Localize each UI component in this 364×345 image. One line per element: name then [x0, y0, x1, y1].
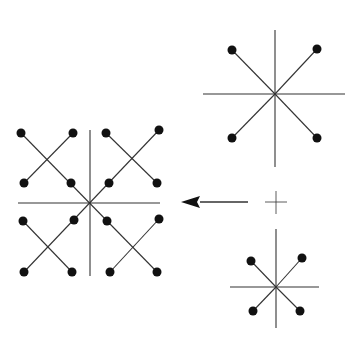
dot	[313, 45, 322, 54]
diagram-canvas	[0, 0, 364, 345]
dot	[69, 129, 78, 138]
spoke-line	[275, 94, 317, 138]
dot	[296, 307, 305, 316]
dot	[228, 46, 237, 55]
dot	[105, 179, 114, 188]
spoke-line	[232, 94, 275, 138]
dot	[228, 134, 237, 143]
spoke-line	[251, 261, 276, 287]
spoke-line	[253, 287, 276, 311]
dot	[67, 179, 76, 188]
dot	[20, 179, 29, 188]
dot	[70, 216, 79, 225]
arrow-head	[181, 196, 200, 208]
dot	[298, 254, 307, 263]
dot	[153, 268, 162, 277]
dot	[19, 217, 28, 226]
dot	[17, 129, 26, 138]
diagonal-line	[24, 133, 73, 183]
diagonal-line	[110, 219, 159, 272]
dot	[313, 134, 322, 143]
spoke-line	[276, 258, 302, 287]
left-arrow	[181, 196, 248, 208]
composite-pattern	[17, 126, 164, 277]
dot	[155, 126, 164, 135]
dot	[155, 215, 164, 224]
diagonal-line	[24, 130, 159, 272]
dot	[249, 307, 258, 316]
spoke-line	[275, 49, 317, 94]
small-star	[230, 229, 319, 328]
figures-group	[17, 30, 346, 328]
large-star	[203, 30, 345, 167]
small-cross	[265, 191, 287, 214]
dot	[103, 217, 112, 226]
dot	[153, 179, 162, 188]
dot	[106, 268, 115, 277]
dot	[68, 268, 77, 277]
dot	[102, 129, 111, 138]
spoke-line	[232, 50, 275, 94]
dot	[20, 268, 29, 277]
dot	[247, 257, 256, 266]
spoke-line	[276, 287, 300, 311]
